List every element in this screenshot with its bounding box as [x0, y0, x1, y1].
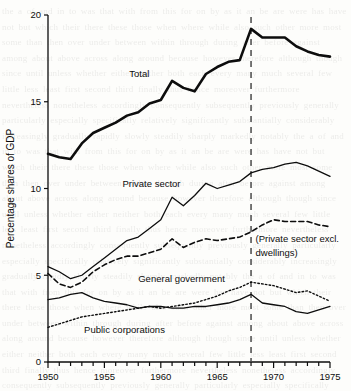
- chart-canvas: 05101520195019551960196519701975 TotalPr…: [0, 0, 351, 391]
- total-label: Total: [129, 68, 149, 79]
- public-corporations-label: Public corporations: [84, 324, 165, 335]
- x-tick-label: 1965: [207, 371, 228, 382]
- series-line-total: [48, 29, 330, 159]
- axis-title-group: Percentage shares of GDP: [5, 128, 16, 248]
- x-tick-label: 1975: [319, 371, 340, 382]
- x-tick-label: 1970: [263, 371, 284, 382]
- y-tick-label: 15: [30, 96, 41, 107]
- x-tick-label: 1960: [150, 371, 171, 382]
- y-tick-label: 0: [36, 356, 41, 367]
- series-line-public-corporations: [48, 282, 330, 327]
- figure-scanned-line-chart: the a of and in to was that with from th…: [0, 0, 351, 391]
- y-tick-label: 10: [30, 183, 41, 194]
- private-excl-dwellings-label-line2: dwellings): [256, 247, 298, 258]
- y-tick-label: 20: [30, 9, 41, 20]
- x-tick-label: 1950: [37, 371, 58, 382]
- private-excl-dwellings-label-line1: (Private sector excl.: [256, 233, 339, 244]
- series-annotations-group: TotalPrivate sector(Private sector excl.…: [84, 68, 339, 334]
- general-government-label: General government: [138, 273, 225, 284]
- y-tick-label: 5: [36, 270, 41, 281]
- series-line-general-government: [48, 293, 330, 314]
- y-axis-title: Percentage shares of GDP: [5, 128, 16, 248]
- x-tick-label: 1955: [94, 371, 115, 382]
- private-sector-label: Private sector: [122, 178, 180, 189]
- axes-group: 05101520195019551960196519701975: [30, 9, 340, 382]
- series-line-private-sector: [48, 162, 330, 278]
